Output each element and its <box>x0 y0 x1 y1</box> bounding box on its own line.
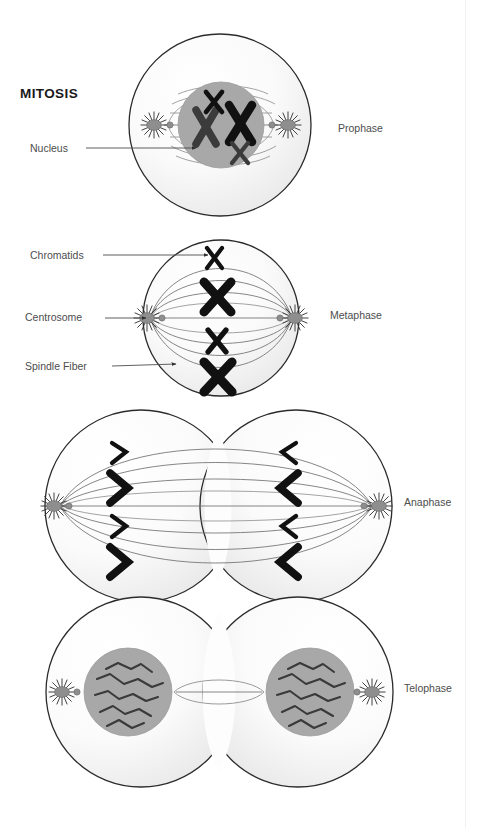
callout-label-chromatids: Chromatids <box>30 249 84 261</box>
stage-label-telophase: Telophase <box>404 682 452 694</box>
page-title: MITOSIS <box>20 86 78 101</box>
stage-label-anaphase: Anaphase <box>404 496 451 508</box>
callout-centrosome: Centrosome <box>25 311 146 323</box>
callout-label-centrosome: Centrosome <box>25 311 82 323</box>
callout-label-nucleus: Nucleus <box>30 142 68 154</box>
stage-prophase: Prophase <box>129 34 383 216</box>
nucleus-circle <box>84 648 172 736</box>
stage-metaphase: Metaphase <box>134 240 383 396</box>
stage-label-metaphase: Metaphase <box>330 309 382 321</box>
nucleus-circle <box>266 648 354 736</box>
diagram-page: MITOSIS <box>0 0 477 828</box>
callout-label-spindle-fiber: Spindle Fiber <box>25 360 87 372</box>
stage-anaphase: Anaphase <box>41 410 452 602</box>
stage-label-prophase: Prophase <box>338 122 383 134</box>
mitosis-diagram: MITOSIS <box>0 0 477 828</box>
callout-spindle-fiber: Spindle Fiber <box>25 360 176 372</box>
stage-telophase: Telophase <box>46 597 452 787</box>
